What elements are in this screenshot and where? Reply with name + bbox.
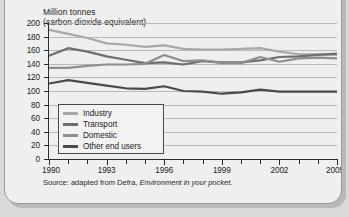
y-axis-tick-label: 0 (14, 155, 40, 164)
series-line-transport (49, 48, 337, 64)
x-axis-tick-label: 1993 (98, 166, 116, 175)
x-axis-tick-label: 1990 (42, 166, 60, 175)
x-axis-tick-label: 1996 (155, 166, 173, 175)
x-axis-tick-mark (203, 160, 204, 164)
series-line-industry (49, 30, 337, 55)
x-axis-tick-mark (222, 160, 223, 165)
x-axis-tick-mark (145, 160, 146, 164)
y-axis-tick-label: 100 (14, 87, 40, 96)
legend-item-transport[interactable]: Transport (63, 119, 163, 130)
x-axis-tick-mark (126, 160, 127, 164)
legend-item-label: Domestic (83, 131, 117, 140)
x-axis-tick-label: 2002 (270, 166, 288, 175)
y-axis-tick-label: 80 (14, 100, 40, 109)
legend-swatch (63, 112, 78, 115)
x-axis-tick-mark (87, 160, 88, 164)
legend-item-other-end-users[interactable]: Other end users (63, 141, 163, 152)
x-axis-line (48, 159, 338, 160)
legend-swatch (63, 145, 78, 148)
legend-item-industry[interactable]: Industry (63, 108, 163, 119)
x-axis-tick-mark (299, 160, 300, 164)
legend-item-label: Transport (83, 120, 117, 129)
axis-title-line-1: Million tonnes (43, 7, 96, 17)
x-axis-tick-mark (337, 160, 338, 165)
chart-legend: IndustryTransportDomesticOther end users (58, 104, 164, 154)
legend-item-label: Industry (83, 109, 112, 118)
y-axis-tick-label: 200 (14, 19, 40, 28)
chart-source: Source: adapted from Defra, Environment … (43, 178, 232, 187)
y-axis-tick-label: 60 (14, 114, 40, 123)
x-axis-tick-label: 1999 (213, 166, 231, 175)
x-axis-tick-mark (68, 160, 69, 164)
x-axis-tick-mark (241, 160, 242, 164)
legend-item-domestic[interactable]: Domestic (63, 130, 163, 141)
x-axis-tick-mark (260, 160, 261, 164)
y-axis-tick-label: 180 (14, 32, 40, 41)
chart-card: Million tonnes (carbon dioxide equivalen… (4, 0, 342, 204)
x-axis-tick-mark (318, 160, 319, 164)
y-axis-tick-label: 140 (14, 59, 40, 68)
y-axis-tick-label: 20 (14, 141, 40, 150)
source-suffix: . (230, 178, 232, 187)
x-axis-tick-mark (183, 160, 184, 164)
x-axis-tick-label: 2005 (326, 166, 342, 175)
x-axis-tick-mark (164, 160, 165, 165)
y-axis-tick-label: 160 (14, 46, 40, 55)
x-axis-tick-mark (279, 160, 280, 165)
x-axis-tick-mark (49, 160, 50, 165)
y-axis-tick-label: 120 (14, 73, 40, 82)
legend-item-label: Other end users (83, 142, 141, 151)
legend-swatch (63, 123, 78, 126)
x-axis-tick-mark (107, 160, 108, 165)
legend-swatch (63, 134, 78, 137)
source-title: Environment in your pocket (140, 178, 231, 187)
source-prefix: Source: adapted from Defra, (43, 178, 140, 187)
y-axis-tick-label: 40 (14, 127, 40, 136)
series-line-other-end-users (49, 80, 337, 94)
